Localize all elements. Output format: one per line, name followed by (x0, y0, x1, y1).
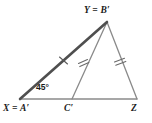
vertex-label-middle: C′ (64, 104, 73, 114)
geometry-figure: Y = B′ X = A′ C′ Z 45° (0, 0, 152, 123)
vertex-label-left: X = A′ (3, 104, 29, 114)
vertex-label-right: Z (131, 104, 137, 114)
segment-yc (72, 22, 107, 99)
angle-label-45: 45° (36, 83, 49, 92)
segment-yz (107, 22, 137, 99)
vertex-label-apex: Y = B′ (84, 6, 110, 16)
